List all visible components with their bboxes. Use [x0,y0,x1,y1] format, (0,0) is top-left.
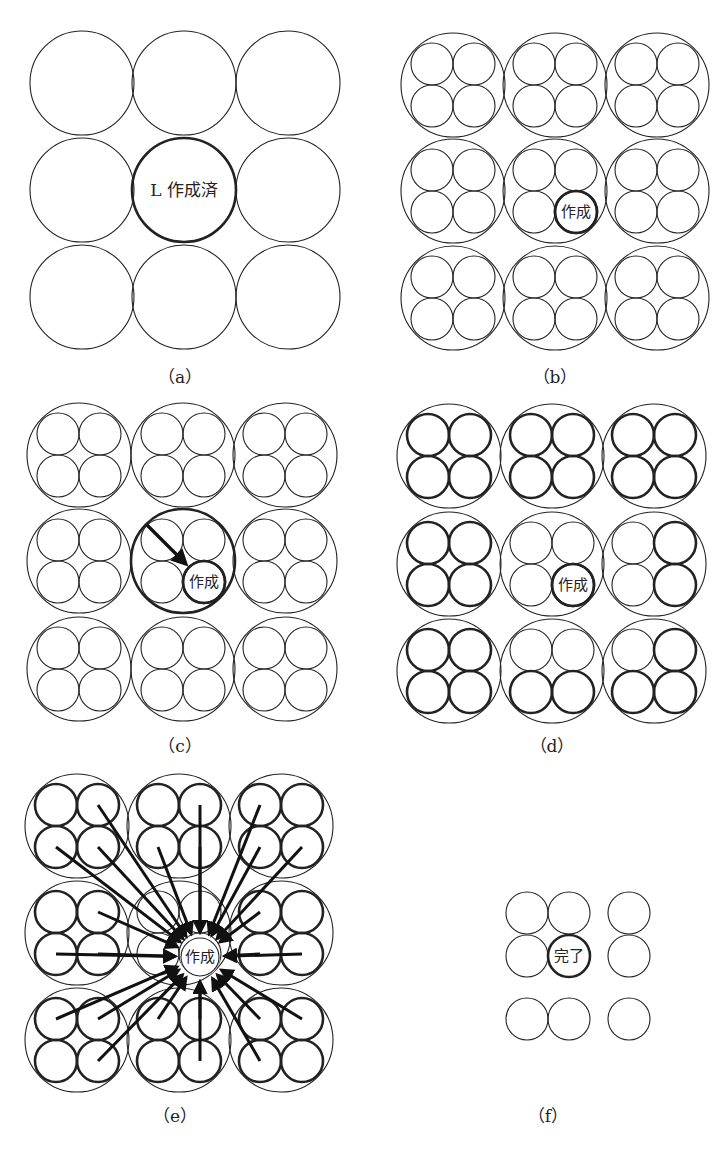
parent-cell-circle [605,139,709,243]
child-cell-circle [411,191,453,233]
child-cell-circle [243,561,285,603]
child-cell-circle [608,892,650,934]
child-cell-circle [513,149,555,191]
parent-cell-circle [605,246,709,350]
child-cell-circle [79,561,121,603]
parent-cell-circle [131,617,235,721]
child-cell-circle [183,519,225,561]
child-cell-circle [453,191,495,233]
arrow-icon [221,970,302,1019]
grid-cell [233,617,337,721]
child-cell-circle [243,669,285,711]
grid-cell [30,31,134,135]
child-cell-circle [654,629,696,671]
child-cell-circle [183,413,225,455]
child-cell-circle [285,455,327,497]
child-cell-circle [453,256,495,298]
grid-cell [131,403,235,507]
child-cell-circle [615,191,657,233]
panel-c: 作成（c） [27,403,337,756]
parent-cell-circle [401,33,505,137]
child-cell-circle [548,998,590,1040]
grid-cell [605,139,709,243]
child-cell-circle [552,456,594,498]
child-cell-circle [615,298,657,340]
grid-cell [233,509,337,613]
child-cell-circle [513,256,555,298]
child-cell-circle [411,85,453,127]
child-cell-circle [552,414,594,456]
parent-cell-circle [30,31,134,135]
child-cell-circle [449,629,491,671]
panel-caption: （f） [528,1106,568,1126]
target-cell-label: 作成 [185,948,215,966]
child-cell-circle [510,671,552,713]
grid-cell [602,512,706,616]
child-cell-circle [548,892,590,934]
grid-cell [500,619,604,723]
child-cell-circle [35,891,77,933]
panel-b: 作成（b） [401,33,709,387]
grid-cell [233,403,337,507]
child-cell-circle [510,564,552,606]
grid-cell [30,245,134,349]
parent-cell-circle [30,138,134,242]
child-cell-circle [37,627,79,669]
child-cell-circle [654,414,696,456]
panel-d: 作成（d） [397,404,706,756]
grid-cell [131,617,235,721]
child-cell-circle [35,1040,77,1082]
child-cell-circle [506,998,548,1040]
parent-cell-circle [27,617,131,721]
grid-cell [397,619,501,723]
child-cell-circle [552,671,594,713]
grid-cell [605,33,709,137]
grid-cell [500,404,604,508]
child-cell-circle [243,519,285,561]
grid-cell [25,988,129,1092]
parent-cell-circle [132,245,236,349]
child-cell-circle [453,43,495,85]
child-cell-circle [37,413,79,455]
child-cell-circle [510,629,552,671]
child-cell-circle [285,669,327,711]
child-cell-circle [615,85,657,127]
child-cell-circle [37,561,79,603]
grid-cell [397,404,501,508]
child-cell-circle [243,455,285,497]
parent-cell-circle [131,403,235,507]
parent-cell-circle [236,31,340,135]
child-cell-circle [37,519,79,561]
created-child-label: 作成 [561,203,591,221]
child-cell-circle [555,149,597,191]
child-cell-circle [183,669,225,711]
created-child-label: 作成 [189,573,219,591]
grid-cell [401,246,505,350]
parent-cell-circle [236,245,340,349]
child-cell-circle [657,85,699,127]
child-cell-circle [510,414,552,456]
child-cell-circle [612,456,654,498]
grid-cell [132,31,236,135]
child-cell-circle [79,455,121,497]
child-cell-circle [453,298,495,340]
grid-cell [602,619,706,723]
child-cell-circle [608,998,650,1040]
parent-cell-circle [233,617,337,721]
child-cell-circle [79,669,121,711]
child-cell-circle [281,784,323,826]
child-cell-circle [141,455,183,497]
child-cell-circle [407,564,449,606]
child-cell-circle [137,784,179,826]
grid-cell [236,138,340,242]
panel-caption: （c） [158,736,202,756]
parent-cell-circle [233,509,337,613]
child-cell-circle [281,1040,323,1082]
grid-cell [397,512,501,616]
child-cell-circle [552,629,594,671]
parent-cell-circle [401,139,505,243]
grid-cell [25,881,129,985]
panel-caption: （e） [153,1106,197,1126]
grid-cell [602,404,706,508]
parent-cell-circle [503,246,607,350]
